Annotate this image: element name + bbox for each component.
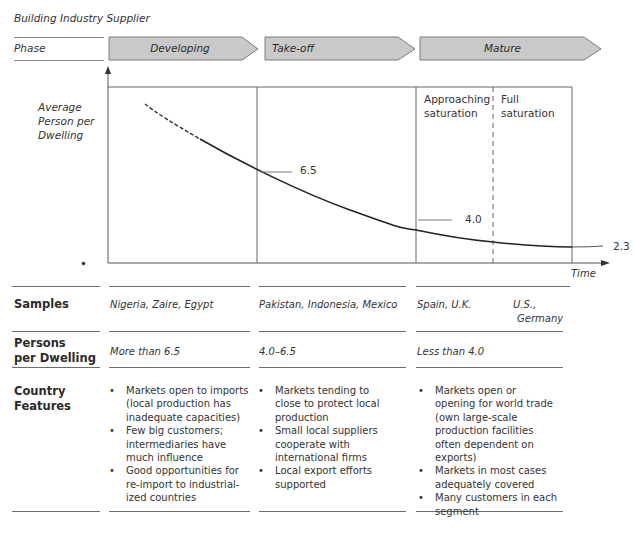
feature-item: Local export efforts supported (255, 464, 410, 491)
samples-approaching-saturation: Spain, U.K. (417, 298, 472, 312)
feature-line: segment (435, 505, 570, 518)
curve-solid-segment (200, 139, 572, 247)
rule (12, 286, 100, 287)
x-axis-arrow-icon (601, 260, 610, 266)
feature-line: Markets open or (435, 384, 570, 397)
feature-line: (own large-scale (435, 411, 570, 424)
feature-line: Markets tending to (275, 384, 410, 397)
row-header-line: per Dwelling (14, 351, 96, 366)
persons-mature: Less than 4.0 (417, 345, 484, 359)
y-axis-label-line: Average (38, 100, 94, 114)
persons-developing: More than 6.5 (110, 345, 180, 359)
rule (416, 286, 570, 287)
subphase-label-line: saturation (501, 106, 555, 120)
rule (109, 286, 250, 287)
feature-line: Few big customers; (126, 424, 256, 437)
feature-line: re-import to industrial- (126, 478, 256, 491)
y-axis-arrow-icon (105, 66, 111, 74)
feature-line: ized countries (126, 491, 256, 504)
rule (12, 511, 100, 512)
feature-line: exports) (435, 451, 570, 464)
feature-line: Local export efforts (275, 464, 410, 477)
features-take-off-list: Markets tending to close to protect loca… (255, 384, 410, 491)
feature-item: Markets in most cases adequately covered (415, 464, 570, 491)
rule (12, 367, 100, 368)
feature-line: production (275, 411, 410, 424)
feature-line: (local production has (126, 397, 256, 410)
feature-item: Few big customers; intermediaries have m… (106, 424, 256, 464)
feature-line: opening for world trade (435, 397, 570, 410)
row-header-persons-per-dwelling: Persons per Dwelling (14, 336, 96, 366)
rule (416, 331, 563, 332)
curve-dashed-segment (145, 104, 200, 139)
feature-line: cooperate with (275, 438, 410, 451)
row-header-line: Samples (14, 297, 69, 312)
rule (416, 367, 563, 368)
subphase-approaching-saturation: Approaching saturation (424, 92, 490, 120)
cell-line: U.S., (513, 298, 563, 312)
feature-line: Small local suppliers (275, 424, 410, 437)
feature-line: much influence (126, 451, 256, 464)
feature-item: Markets open or opening for world trade … (415, 384, 570, 464)
rule (259, 511, 406, 512)
persons-take-off: 4.0–6.5 (259, 345, 296, 359)
rule (109, 511, 250, 512)
x-axis-label: Time (571, 268, 596, 279)
feature-line: supported (275, 478, 410, 491)
feature-line: international firms (275, 451, 410, 464)
feature-line: intermediaries have (126, 438, 256, 451)
subphase-label-line: saturation (424, 106, 490, 120)
marker-value-2-3: 2.3 (613, 240, 630, 252)
feature-item: Markets tending to close to protect loca… (255, 384, 410, 424)
feature-item: Markets open to imports (local productio… (106, 384, 256, 424)
features-mature-list: Markets open or opening for world trade … (415, 384, 570, 518)
subphase-label-line: Approaching (424, 92, 490, 106)
feature-line: Good opportunities for (126, 464, 256, 477)
row-header-samples: Samples (14, 297, 69, 312)
curve-tail (572, 246, 603, 247)
feature-item: Good opportunities for re-import to indu… (106, 464, 256, 504)
row-header-line: Features (14, 399, 71, 414)
feature-line: adequately covered (435, 478, 570, 491)
cell-line: Germany (513, 312, 563, 326)
feature-line: Markets in most cases (435, 464, 570, 477)
features-developing-list: Markets open to imports (local productio… (106, 384, 256, 505)
samples-full-saturation: U.S., Germany (513, 298, 563, 326)
marker-value-6-5: 6.5 (300, 164, 317, 176)
feature-line: Many customers in each (435, 491, 570, 504)
y-axis-label: Average Person per Dwelling (38, 100, 94, 142)
rule (259, 331, 406, 332)
rule (109, 367, 250, 368)
subphase-label-line: Full (501, 92, 555, 106)
feature-line: often dependent on (435, 438, 570, 451)
rule (109, 331, 250, 332)
marker-value-4-0: 4.0 (465, 213, 482, 225)
row-header-country-features: Country Features (14, 384, 71, 414)
feature-item: Small local suppliers cooperate with int… (255, 424, 410, 464)
samples-take-off: Pakistan, Indonesia, Mexico (259, 298, 398, 312)
feature-item: Many customers in each segment (415, 491, 570, 518)
feature-line: inadequate capacities) (126, 411, 256, 424)
row-header-line: Persons (14, 336, 96, 351)
samples-developing: Nigeria, Zaire, Egypt (110, 298, 213, 312)
y-axis-label-line: Dwelling (38, 128, 94, 142)
row-header-line: Country (14, 384, 71, 399)
feature-line: close to protect local (275, 397, 410, 410)
feature-line: production facilities (435, 424, 570, 437)
feature-line: Markets open to imports (126, 384, 256, 397)
y-axis-label-line: Person per (38, 114, 94, 128)
rule (259, 286, 406, 287)
rule (259, 367, 406, 368)
rule (12, 331, 100, 332)
subphase-full-saturation: Full saturation (501, 92, 555, 120)
